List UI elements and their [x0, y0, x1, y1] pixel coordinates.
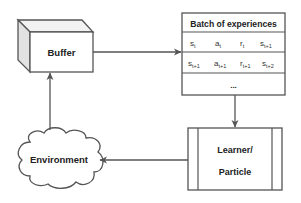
batch-table-title: Batch of experiences: [190, 19, 277, 29]
learner-box: [188, 128, 282, 190]
table-ellipsis: ...: [230, 81, 237, 90]
learner-node: Learner/ Particle: [188, 128, 282, 190]
buffer-label: Buffer: [48, 47, 76, 58]
diagram-canvas: Buffer Batch of experiences st at rt st+…: [0, 0, 301, 203]
learner-label-line1: Learner/: [217, 145, 253, 155]
buffer-top-face: [18, 20, 93, 32]
environment-label: Environment: [30, 154, 89, 165]
learner-label-line2: Particle: [219, 167, 252, 177]
environment-node: Environment: [18, 128, 103, 189]
buffer-node: Buffer: [18, 20, 93, 72]
batch-table: Batch of experiences st at rt st+1 st+1 …: [182, 13, 285, 95]
